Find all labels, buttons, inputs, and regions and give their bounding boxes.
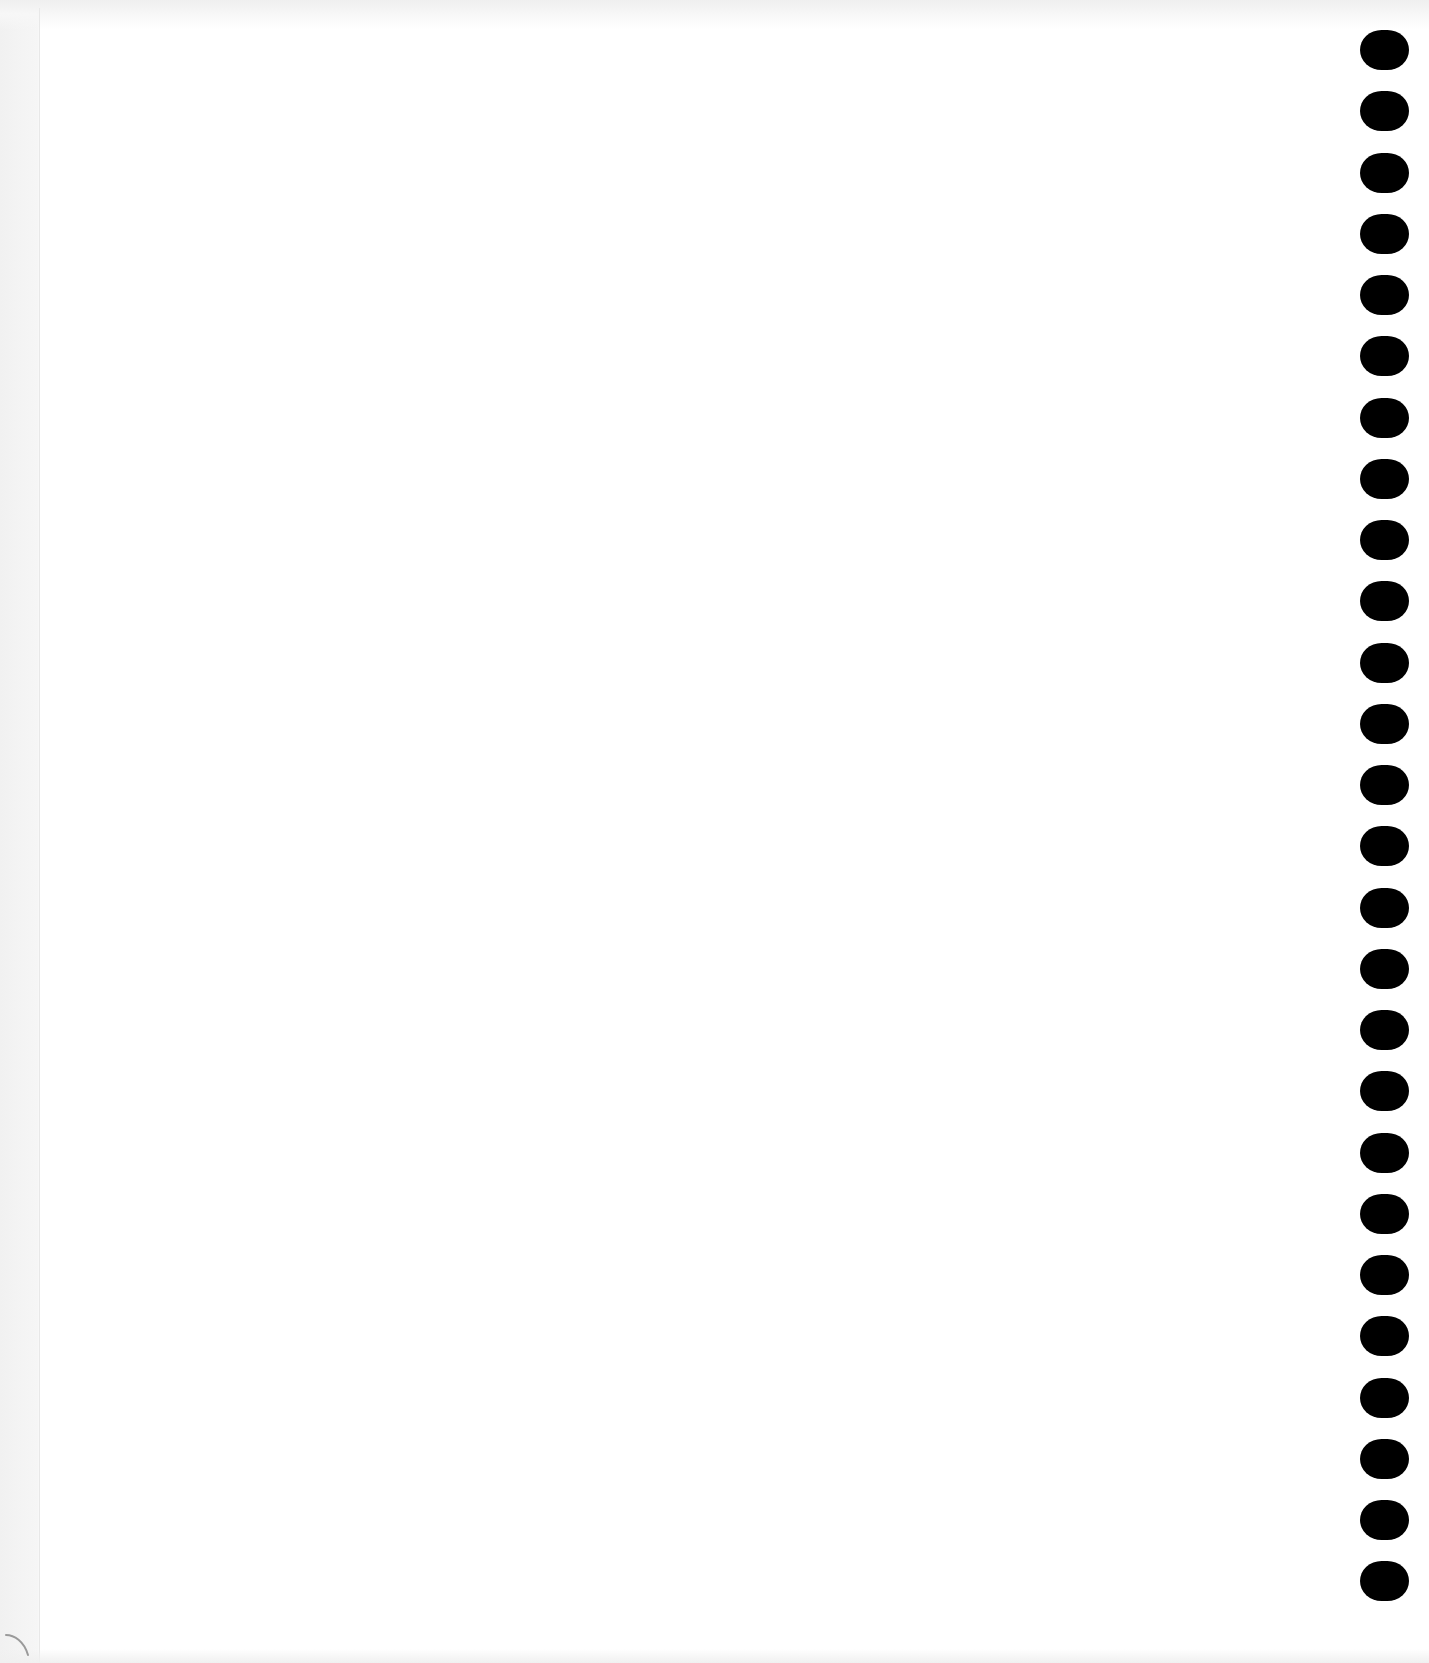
binding-hole [1360,1500,1409,1540]
binding-hole [1360,643,1409,683]
binding-hole [1360,888,1409,928]
binding-hole [1360,1194,1409,1234]
binding-hole [1360,1378,1409,1418]
binding-hole [1360,1010,1409,1050]
binding-hole [1360,1071,1409,1111]
notebook-sheet [0,0,1429,1663]
binding-hole [1360,826,1409,866]
spiral-binding-holes [0,0,1429,1663]
paper-curl-mark-icon [4,1625,34,1659]
binding-hole [1360,1133,1409,1173]
binding-hole [1360,581,1409,621]
binding-hole [1360,153,1409,193]
binding-hole [1360,275,1409,315]
binding-hole [1360,214,1409,254]
binding-hole [1360,1255,1409,1295]
binding-hole [1360,91,1409,131]
binding-hole [1360,704,1409,744]
binding-hole [1360,765,1409,805]
binding-hole [1360,336,1409,376]
binding-hole [1360,459,1409,499]
binding-hole [1360,1439,1409,1479]
binding-hole [1360,30,1409,70]
binding-hole [1360,520,1409,560]
binding-hole [1360,949,1409,989]
binding-hole [1360,398,1409,438]
binding-hole [1360,1561,1409,1601]
binding-hole [1360,1316,1409,1356]
